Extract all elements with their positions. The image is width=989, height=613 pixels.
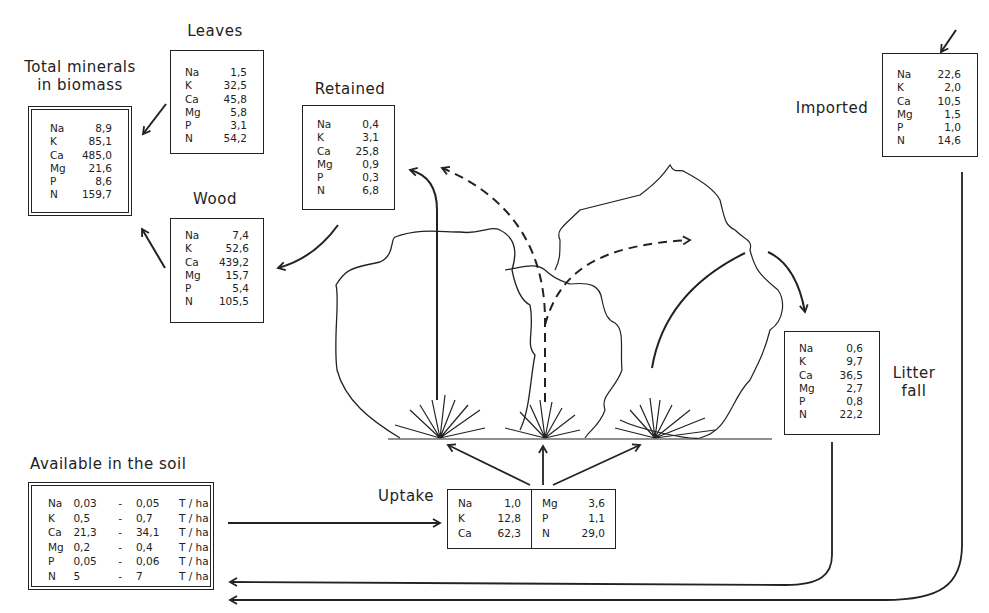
table-row: K32,5 <box>185 79 247 92</box>
table-row: Na0,6 <box>799 342 863 355</box>
table-row: Na0,4 <box>317 118 379 131</box>
tree-crown-right <box>555 165 783 438</box>
table-row: Mg1,5 <box>897 108 961 121</box>
litter-fall-box: Na0,6 K9,7 Ca36,5 Mg2,7 P0,8 N22,2 <box>784 331 880 435</box>
table-row: Mg0,9 <box>317 158 379 171</box>
table-row: Na7,4 <box>185 229 249 242</box>
arrow-uptake-to-left-tree <box>448 445 530 485</box>
arrow-to-litter <box>768 252 805 312</box>
arrow-dashed-upleft <box>442 168 545 402</box>
tree-crown-middle <box>505 266 622 438</box>
table-row: P0,3 <box>317 171 379 184</box>
arrow-dashed-upright <box>545 240 690 325</box>
soil-label: Available in the soil <box>30 455 210 473</box>
arrow-uptake-to-right-tree <box>553 445 640 485</box>
table-row: K12,8 <box>458 511 521 526</box>
wood-label: Wood <box>185 190 245 208</box>
table-row: Ca45,8 <box>185 93 247 106</box>
uptake-col-right: Mg3,6 P1,1 N29,0 <box>531 490 615 548</box>
table-row: Na22,6 <box>897 68 961 81</box>
table-row: Ca62,3 <box>458 526 521 541</box>
table-row: Mg3,6 <box>542 496 605 511</box>
wood-box: Na7,4 K52,6 Ca439,2 Mg15,7 P5,4 N105,5 <box>170 218 264 323</box>
table-row: P0,05-0,06T / ha <box>48 554 218 569</box>
table-row: N5-7T / ha <box>48 569 218 584</box>
table-row: P5,4 <box>185 282 249 295</box>
arrow-wood-to-total <box>142 229 165 268</box>
table-row: Na1,0 <box>458 496 521 511</box>
retained-box: Na0,4 K3,1 Ca25,8 Mg0,9 P0,3 N6,8 <box>302 105 395 210</box>
table-row: N29,0 <box>542 526 605 541</box>
table-row: Mg5,8 <box>185 106 247 119</box>
roots <box>395 395 715 438</box>
table-row: N54,2 <box>185 132 247 145</box>
table-row: Mg0,2-0,4T / ha <box>48 540 218 555</box>
table-row: Mg2,7 <box>799 382 863 395</box>
table-row: P3,1 <box>185 119 247 132</box>
table-row: Na1,5 <box>185 66 247 79</box>
table-row: Ca439,2 <box>185 256 249 269</box>
table-row: N105,5 <box>185 295 249 308</box>
arrow-into-imported <box>941 30 956 52</box>
arrow-leaves-to-total <box>143 104 166 134</box>
uptake-col-left: Na1,0 K12,8 Ca62,3 <box>448 490 531 548</box>
table-row: K2,0 <box>897 81 961 94</box>
table-row: P1,1 <box>542 511 605 526</box>
soil-box: Na0,03-0,05T / ha K0,5-0,7T / ha Ca21,3-… <box>28 482 214 590</box>
table-row: Ca485,0 <box>50 149 112 162</box>
table-row: Ca21,3-34,1T / ha <box>48 525 218 540</box>
table-row: Ca10,5 <box>897 95 961 108</box>
table-row: Na0,03-0,05T / ha <box>48 496 218 511</box>
table-row: N22,2 <box>799 408 863 421</box>
table-row: K9,7 <box>799 355 863 368</box>
table-row: N6,8 <box>317 184 379 197</box>
total-biomass-box: Na8,9 K85,1 Ca485,0 Mg21,6 P8,6 N159,7 <box>28 106 132 216</box>
table-row: Ca25,8 <box>317 145 379 158</box>
table-row: K0,5-0,7T / ha <box>48 511 218 526</box>
table-row: N14,6 <box>897 134 961 147</box>
litter-fall-label: Litter fall <box>884 364 944 400</box>
table-row: K85,1 <box>50 135 112 148</box>
leaves-box: Na1,5 K32,5 Ca45,8 Mg5,8 P3,1 N54,2 <box>170 50 264 154</box>
imported-box: Na22,6 K2,0 Ca10,5 Mg1,5 P1,0 N14,6 <box>882 53 978 157</box>
leaves-label: Leaves <box>180 22 250 40</box>
uptake-box: Na1,0 K12,8 Ca62,3 Mg3,6 P1,1 N29,0 <box>447 489 616 549</box>
total-biomass-label: Total minerals in biomass <box>10 58 150 94</box>
arrow-retained-to-wood <box>278 225 338 268</box>
table-row: Ca36,5 <box>799 369 863 382</box>
table-row: P8,6 <box>50 175 112 188</box>
table-row: Mg21,6 <box>50 162 112 175</box>
table-row: P0,8 <box>799 395 863 408</box>
table-row: K52,6 <box>185 242 249 255</box>
uptake-label: Uptake <box>378 487 438 505</box>
table-row: N159,7 <box>50 188 112 201</box>
table-row: P1,0 <box>897 121 961 134</box>
table-row: Mg15,7 <box>185 269 249 282</box>
retained-label: Retained <box>305 80 395 98</box>
table-row: Na8,9 <box>50 122 112 135</box>
tree-crown-left <box>336 229 535 438</box>
imported-label: Imported <box>792 99 872 117</box>
arc-litter-source <box>652 253 745 368</box>
table-row: K3,1 <box>317 131 379 144</box>
arrow-to-retained <box>410 170 437 400</box>
